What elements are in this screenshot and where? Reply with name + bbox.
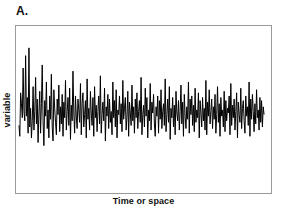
plot-frame (15, 25, 272, 194)
series-polyline (19, 48, 264, 146)
panel-label: A. (16, 4, 28, 18)
x-axis-label: Time or space (15, 196, 272, 206)
y-axis-label: variable (3, 92, 13, 127)
y-axis-label-container: variable (0, 25, 15, 194)
time-series-line (16, 26, 271, 193)
figure-panel-a: A. variable Time or space (0, 0, 286, 210)
